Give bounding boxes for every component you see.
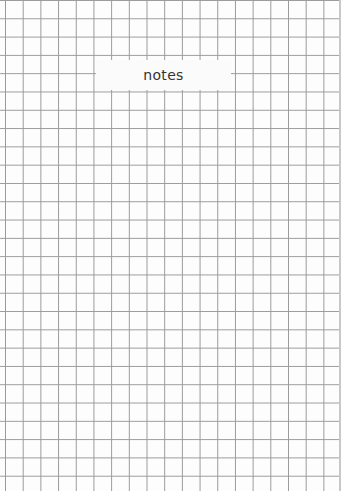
grid-paper-page: notes: [0, 0, 339, 491]
notes-label: notes: [96, 60, 231, 90]
